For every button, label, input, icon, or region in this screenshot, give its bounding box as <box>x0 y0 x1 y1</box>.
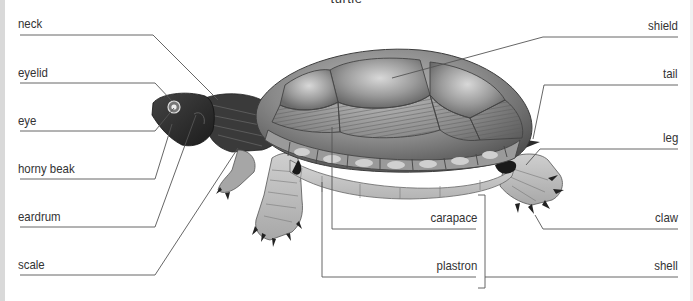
head-shape <box>152 93 214 146</box>
label-claw: claw <box>655 211 678 225</box>
leader-tail <box>533 85 678 139</box>
label-eye: eye <box>18 114 36 128</box>
eye-shape <box>171 104 176 109</box>
label-eardrum: eardrum <box>18 210 61 224</box>
front-leg-far <box>216 150 255 200</box>
label-plastron: plastron <box>436 259 477 273</box>
label-scale: scale <box>18 258 45 272</box>
label-shield: shield <box>648 19 678 33</box>
shield-scute <box>330 58 430 108</box>
label-leg: leg <box>663 131 678 145</box>
label-shell: shell <box>654 259 678 273</box>
turtle-illustration <box>0 0 693 301</box>
leader-neck <box>20 35 218 100</box>
leader-eyelid <box>20 83 172 101</box>
label-neck: neck <box>18 17 42 31</box>
shell-bracket <box>478 195 485 288</box>
label-eyelid: eyelid <box>18 66 48 80</box>
carapace-shape <box>256 49 532 172</box>
label-tail: tail <box>663 67 678 81</box>
label-horny-beak: horny beak <box>18 162 75 176</box>
label-carapace: carapace <box>430 211 477 225</box>
leader-eye <box>20 108 174 131</box>
